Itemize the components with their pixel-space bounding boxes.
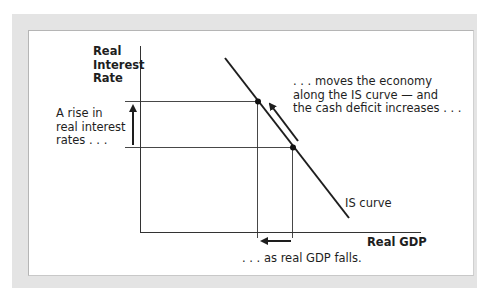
- moves-annotation: . . . moves the economy along the IS cur…: [293, 75, 462, 116]
- point-low-rate: [290, 145, 296, 151]
- x-axis-label: Real GDP: [367, 236, 427, 250]
- point-high-rate: [255, 99, 261, 105]
- falls-annotation: . . . as real GDP falls.: [242, 252, 362, 266]
- y-axis-label: Real Interest Rate: [93, 45, 145, 86]
- is-curve-label: IS curve: [345, 197, 392, 211]
- rise-annotation: A rise in real interest rates . . .: [56, 107, 126, 148]
